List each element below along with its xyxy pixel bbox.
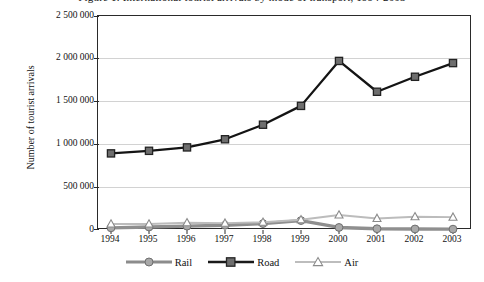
data-point-road-1999 <box>297 102 304 109</box>
data-point-road-1994 <box>107 150 114 157</box>
chart-title: Figure 1. International tourist arrivals… <box>0 0 484 3</box>
x-tick-label-2003: 2003 <box>422 234 482 244</box>
y-tick-label-500000: 500 000 <box>0 181 94 191</box>
legend-label-road: Road <box>257 257 279 268</box>
legend-item-air: Air <box>295 256 358 268</box>
y-tick-label-0: 0 <box>0 224 94 234</box>
legend-item-rail: Rail <box>126 256 193 268</box>
legend-item-road: Road <box>208 256 279 268</box>
data-point-road-2000 <box>335 57 342 64</box>
legend-label-rail: Rail <box>175 257 193 268</box>
data-point-rail-2003 <box>449 225 457 233</box>
data-point-road-2001 <box>373 88 380 95</box>
y-tick-label-1000000: 1 000 000 <box>0 138 94 148</box>
data-point-road-2003 <box>449 59 456 66</box>
legend-label-air: Air <box>344 257 358 268</box>
data-point-rail-2002 <box>411 225 419 233</box>
legend-swatch-rail <box>126 256 172 268</box>
data-point-rail-2001 <box>373 225 381 233</box>
data-point-rail-2000 <box>335 224 343 232</box>
legend-swatch-air <box>295 256 341 268</box>
y-tick-label-1500000: 1 500 000 <box>0 95 94 105</box>
data-point-road-2002 <box>411 73 418 80</box>
legend-swatch-road <box>208 256 254 268</box>
data-point-road-1995 <box>145 147 152 154</box>
data-point-road-1998 <box>259 121 266 128</box>
data-point-road-1996 <box>183 144 190 151</box>
series-plot <box>98 16 472 230</box>
y-tick-label-2500000: 2 500 000 <box>0 10 94 20</box>
y-tick-label-2000000: 2 000 000 <box>0 52 94 62</box>
data-point-road-1997 <box>221 136 228 143</box>
plot-area <box>97 15 471 229</box>
chart-legend: Rail Road Air <box>0 256 484 268</box>
series-line-road <box>111 61 453 153</box>
tourist-arrivals-line-chart: Figure 1. International tourist arrivals… <box>0 0 484 282</box>
